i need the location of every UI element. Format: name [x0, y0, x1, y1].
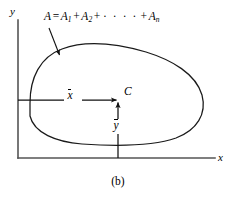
ybar-distance-label: y — [113, 120, 119, 132]
formula-term-n: A — [149, 10, 156, 22]
figure-canvas — [0, 0, 236, 199]
area-formula: A=A1+A2+· · · ·+An — [44, 11, 160, 23]
formula-plus-3: + — [139, 10, 149, 22]
xbar-distance-label: x — [67, 90, 73, 102]
formula-equals: = — [51, 10, 61, 22]
formula-leader-line — [49, 28, 60, 55]
centroid-point-label: C — [124, 86, 132, 98]
formula-term-n-subscript: n — [156, 15, 160, 24]
formula-term-1: A — [61, 10, 68, 22]
centroid-figure: y x A=A1+A2+· · · ·+An C x y (b) — [0, 0, 236, 199]
formula-ellipsis: · · · · — [102, 10, 139, 22]
panel-caption: (b) — [0, 175, 236, 187]
y-axis-label: y — [10, 6, 15, 17]
formula-plus-2: + — [92, 10, 102, 22]
xbar-overbar-text: x — [67, 90, 73, 102]
formula-plus-1: + — [72, 10, 82, 22]
ybar-overbar-text: y — [113, 120, 119, 132]
x-axis-label: x — [218, 152, 223, 163]
